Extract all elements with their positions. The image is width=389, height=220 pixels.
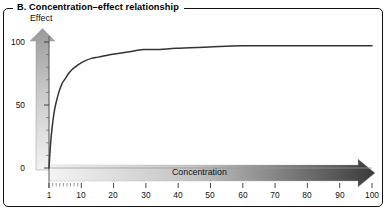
y-axis-title: Effect xyxy=(30,13,52,23)
x-tick-label-30: 30 xyxy=(133,190,159,200)
chart-panel: B. Concentration–effect relationship xyxy=(0,0,389,220)
x-tick-label-10: 10 xyxy=(68,190,94,200)
x-tick-label-90: 90 xyxy=(327,190,353,200)
x-tick-label-1: 1 xyxy=(36,190,62,200)
x-tick-label-40: 40 xyxy=(165,190,191,200)
effect-axis-arrow xyxy=(30,29,55,171)
x-tick-label-50: 50 xyxy=(197,190,223,200)
x-tick-label-100: 100 xyxy=(359,190,385,200)
y-tick-label-50: 50 xyxy=(3,100,25,110)
y-tick-label-0: 0 xyxy=(3,163,25,173)
x-axis-minor-ticks xyxy=(53,183,78,187)
x-tick-label-70: 70 xyxy=(262,190,288,200)
concentration-effect-curve xyxy=(49,46,372,168)
x-tick-label-20: 20 xyxy=(100,190,126,200)
x-tick-label-80: 80 xyxy=(294,190,320,200)
x-tick-label-60: 60 xyxy=(230,190,256,200)
x-axis-ticks xyxy=(49,183,372,188)
chart-svg xyxy=(0,0,389,220)
x-axis-title: Concentration xyxy=(172,167,227,177)
y-tick-label-100: 100 xyxy=(3,37,25,47)
plot-area: 100 50 0 1 10 20 30 40 50 60 70 80 90 10… xyxy=(0,0,389,220)
